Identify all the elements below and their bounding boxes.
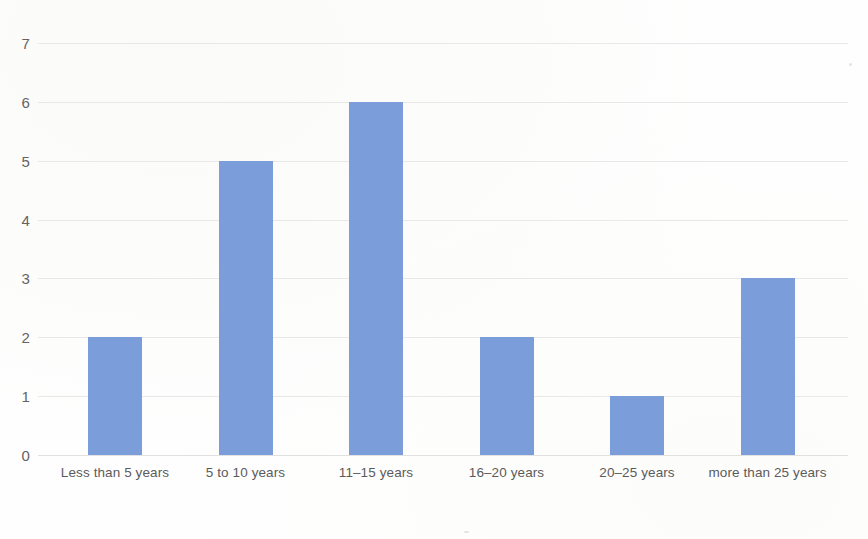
gridline-y-4: [38, 220, 848, 221]
scan-artifact-speck: [464, 531, 469, 533]
bar-2: [219, 161, 273, 455]
y-axis-label-4: 4: [8, 212, 30, 227]
plot-area: 01234567 Less than 5 years5 to 10 years1…: [0, 0, 868, 539]
gridline-y-6: [38, 102, 848, 103]
bar-3: [349, 102, 403, 455]
gridline-y-0: [38, 455, 848, 456]
y-axis-label-7: 7: [8, 36, 30, 51]
x-axis-label-6: more than 25 years: [704, 463, 832, 482]
gridline-y-2: [38, 337, 848, 338]
gridline-y-5: [38, 161, 848, 162]
y-axis-label-0: 0: [8, 448, 30, 463]
x-axis-label-2: 5 to 10 years: [182, 463, 310, 482]
x-axis-label-1: Less than 5 years: [51, 463, 179, 482]
y-axis-label-1: 1: [8, 389, 30, 404]
bar-5: [610, 396, 664, 455]
y-axis-label-2: 2: [8, 330, 30, 345]
bar-6: [741, 278, 795, 455]
x-axis-label-5: 20–25 years: [573, 463, 701, 482]
bar-1: [88, 337, 142, 455]
bar-4: [480, 337, 534, 455]
x-axis-label-4: 16–20 years: [443, 463, 571, 482]
y-axis-label-3: 3: [8, 271, 30, 286]
y-axis-label-5: 5: [8, 153, 30, 168]
gridline-y-3: [38, 278, 848, 279]
gridline-y-7: [38, 43, 848, 44]
y-axis-label-6: 6: [8, 94, 30, 109]
gridline-y-1: [38, 396, 848, 397]
bar-chart-figure: 01234567 Less than 5 years5 to 10 years1…: [0, 0, 868, 539]
x-axis-label-3: 11–15 years: [312, 463, 440, 482]
scan-artifact-speck: [849, 63, 852, 66]
